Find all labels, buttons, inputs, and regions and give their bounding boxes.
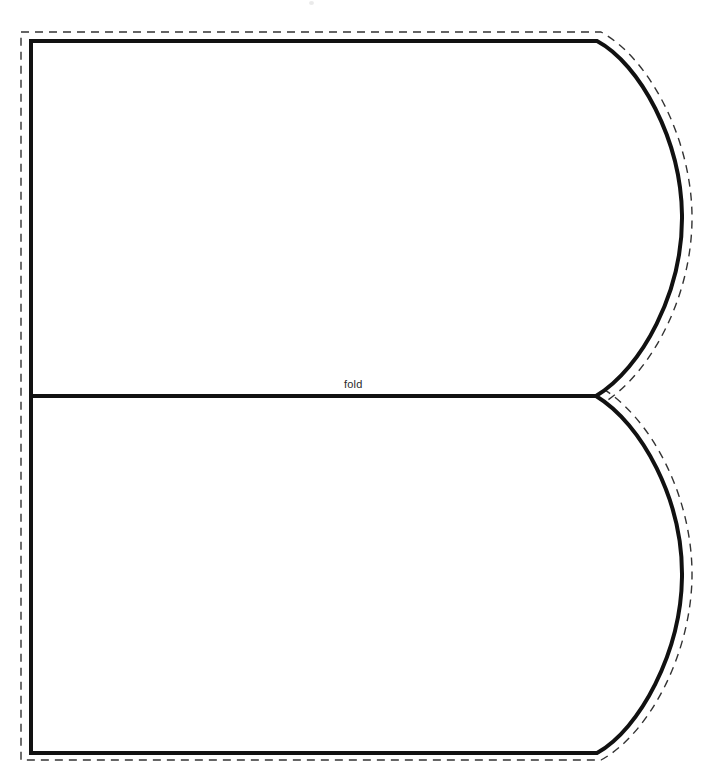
scan-speck-artifact [309, 1, 314, 5]
fold-label: fold [344, 379, 363, 390]
pattern-canvas: fold [0, 0, 717, 783]
pattern-drawing [0, 0, 717, 783]
